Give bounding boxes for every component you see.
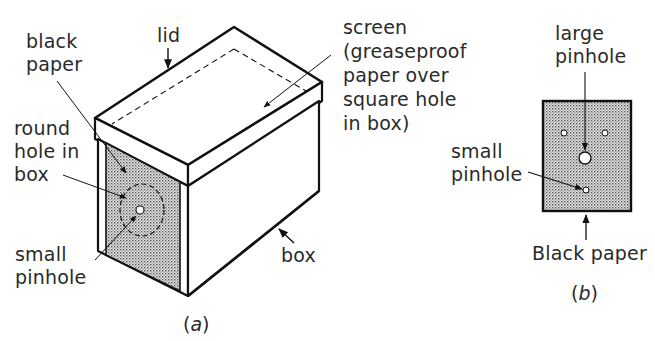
label-black-paper: black paper [26,30,82,76]
label-box: box [281,244,316,267]
label-small-pinhole-a: small pinhole [15,243,86,289]
label-large-pinhole: large pinhole [555,22,626,68]
large-pinhole [579,152,591,164]
label-lid: lid [157,24,180,47]
caption-a: (a) [183,313,210,335]
caption-b: (b) [571,282,598,304]
side-pinhole-right [602,130,608,136]
black-paper-figure-b [528,72,631,240]
label-black-paper-b: Black paper [532,242,647,265]
small-pinhole-a [136,206,144,214]
side-pinhole-left [561,130,567,136]
small-pinhole-b [583,187,589,193]
label-round-hole: round hole in box [14,117,79,186]
label-small-pinhole-b: small pinhole [451,140,522,186]
label-screen: screen (greaseproof paper over square ho… [343,15,467,135]
